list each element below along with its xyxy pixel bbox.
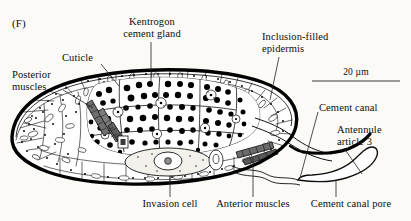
label-cuticle: Cuticle [62, 52, 93, 64]
scale-bar-label: 20 µm [312, 66, 400, 78]
label-anterior-muscles: Anterior muscles [212, 198, 294, 210]
label-cement-canal-pore: Cement canal pore [302, 198, 400, 210]
label-posterior-muscles: Posterior muscles [12, 69, 51, 94]
label-kentrogon-cement-gland: Kentrogon cement gland [104, 16, 200, 41]
label-cement-canal: Cement canal [319, 102, 378, 114]
panel-letter: (F) [12, 17, 26, 29]
label-antennule-article-3: Antennule article 3 [337, 124, 382, 149]
label-inclusion-filled-epidermis: Inclusion-filled epidermis [262, 31, 328, 56]
leader-cement-canal [300, 112, 318, 178]
label-invasion-cell: Invasion cell [133, 198, 207, 210]
